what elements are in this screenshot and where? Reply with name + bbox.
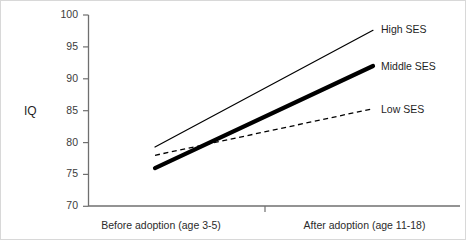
y-tick-label-90: 90 — [38, 73, 78, 84]
series-label-high-ses: High SES — [381, 23, 427, 35]
chart-figure: IQ 100 95 90 85 80 75 70 Before adoption… — [0, 0, 467, 241]
y-tick-label-70: 70 — [38, 200, 78, 211]
x-category-label-before: Before adoption (age 3-5) — [96, 219, 226, 231]
y-tick-marks — [83, 15, 89, 206]
y-tick-label-100: 100 — [38, 9, 78, 20]
y-tick-label-75: 75 — [38, 168, 78, 179]
series-label-low-ses: Low SES — [381, 103, 424, 115]
series-label-middle-ses: Middle SES — [381, 60, 436, 72]
x-category-label-after: After adoption (age 11-18) — [292, 219, 437, 231]
series-line-middle-ses — [155, 66, 373, 168]
y-axis-title: IQ — [24, 105, 37, 117]
series-line-high-ses — [155, 30, 373, 147]
y-tick-label-85: 85 — [38, 105, 78, 116]
y-tick-label-80: 80 — [38, 137, 78, 148]
y-tick-label-95: 95 — [38, 41, 78, 52]
